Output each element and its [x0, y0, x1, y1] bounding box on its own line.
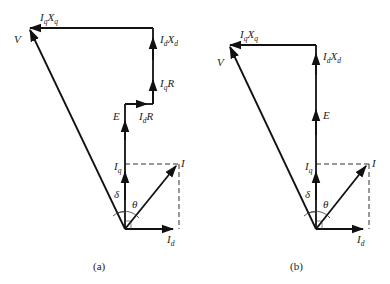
label-i: I: [371, 157, 377, 169]
label-idxd: IdXd: [159, 33, 178, 48]
label-id: Id: [356, 233, 365, 248]
label-id: Id: [166, 233, 175, 248]
label-iqr: IqR: [159, 77, 174, 92]
label-iqxq: IqXq: [239, 28, 258, 43]
label-iq: Iq: [113, 160, 122, 175]
label-delta: δ: [114, 188, 120, 200]
label-i: I: [180, 157, 186, 169]
phasor-diagrams: V IqXq IdXd IqR IdR E Iq I Id δ θ (a) V …: [0, 0, 390, 284]
diagram-b: V IqXq IdXd E Iq I Id δ θ (b): [217, 28, 377, 273]
label-v: V: [14, 33, 22, 45]
caption-a: (a): [93, 260, 106, 273]
label-iq: Iq: [304, 160, 313, 175]
label-theta: θ: [132, 198, 138, 210]
label-idxd: IdXd: [322, 50, 341, 65]
caption-b: (b): [290, 260, 303, 273]
label-delta: δ: [305, 188, 311, 200]
label-e: E: [322, 109, 330, 121]
label-idr: IdR: [138, 110, 153, 125]
label-theta: θ: [323, 198, 329, 210]
voltage-phasor: [230, 47, 316, 229]
label-iqxq: IqXq: [39, 11, 58, 26]
diagram-a: V IqXq IdXd IqR IdR E Iq I Id δ θ (a): [14, 11, 186, 273]
label-e: E: [112, 110, 120, 122]
voltage-phasor: [30, 30, 125, 229]
label-v: V: [217, 56, 225, 68]
